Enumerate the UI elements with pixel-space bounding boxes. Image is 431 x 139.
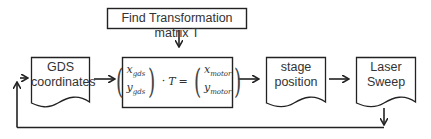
gds-label-line2: coordinates <box>31 75 90 90</box>
equals-sign: = <box>178 75 187 88</box>
dot-operator: · <box>162 75 166 88</box>
gds-label: GDS coordinates <box>31 60 90 90</box>
stage-label-line2: position <box>266 75 326 90</box>
laser-label-line2: Sweep <box>356 75 416 90</box>
rhs-vector: xmotor ymotor <box>204 63 231 99</box>
laser-label: Laser Sweep <box>356 60 416 90</box>
gds-label-line1: GDS <box>31 60 90 75</box>
left-paren-rhs: ( <box>194 64 201 98</box>
left-paren: ( <box>116 64 123 98</box>
transform-formula: ( xgds ygds ) · T = ( xmotor ymotor ) <box>124 57 234 105</box>
right-paren: ) <box>148 64 155 98</box>
matrix-symbol: T <box>168 75 175 88</box>
laser-label-line1: Laser <box>356 60 416 75</box>
right-paren-rhs: ) <box>234 64 241 98</box>
stage-label-line1: stage <box>266 60 326 75</box>
find-transformation-label: Find Transformation matrix T <box>107 11 247 41</box>
lhs-vector: xgds ygds <box>127 63 146 99</box>
stage-label: stage position <box>266 60 326 90</box>
